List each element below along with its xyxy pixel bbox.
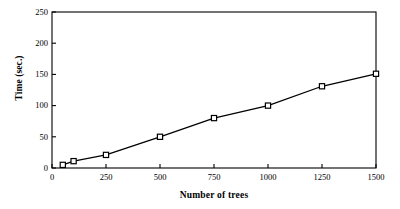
data-point-marker xyxy=(211,115,216,120)
plot-area xyxy=(0,0,400,209)
chart-container: Time (sec.) Number of trees 0 50 100 150… xyxy=(0,0,400,209)
series-markers-time xyxy=(60,71,378,167)
data-point-marker xyxy=(157,134,162,139)
data-point-marker xyxy=(265,103,270,108)
axis-frame xyxy=(52,12,376,168)
x-axis-ticks xyxy=(52,164,376,168)
data-point-marker xyxy=(71,159,76,164)
data-point-marker xyxy=(319,84,324,89)
data-point-marker xyxy=(373,71,378,76)
y-axis-ticks xyxy=(52,12,56,168)
series-line-time xyxy=(63,74,376,165)
data-point-marker xyxy=(103,152,108,157)
data-point-marker xyxy=(60,162,65,167)
